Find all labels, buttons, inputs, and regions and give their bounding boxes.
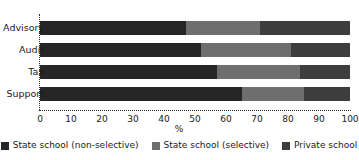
bar-segment: [201, 43, 291, 57]
bar-row: [40, 43, 350, 57]
legend-label: State school (non-selective): [13, 140, 139, 151]
legend-item: State school (selective): [152, 140, 270, 151]
legend-item: State school (non-selective): [1, 140, 139, 151]
legend-swatch-icon: [1, 142, 9, 150]
bar-segment: [40, 43, 201, 57]
bar-row: [40, 87, 350, 101]
bar-row: [40, 65, 350, 79]
legend-label: Private school: [294, 140, 357, 151]
legend-swatch-icon: [152, 142, 160, 150]
bar-segment: [217, 65, 301, 79]
bar-segment: [40, 65, 217, 79]
x-axis-title: %: [0, 124, 358, 135]
bar-segment: [40, 21, 186, 35]
legend-item: Private school: [282, 140, 357, 151]
bar-row: [40, 21, 350, 35]
y-axis-label: Audit: [0, 43, 44, 57]
y-axis-label: Support: [0, 87, 44, 101]
bar-segment: [291, 43, 350, 57]
bar-segment: [242, 87, 304, 101]
legend-label: State school (selective): [164, 140, 270, 151]
y-axis-label: Tax: [0, 65, 44, 79]
bar-segment: [300, 65, 350, 79]
y-axis-label: Advisory: [0, 21, 44, 35]
x-axis-line: [39, 110, 351, 111]
chart-legend: State school (non-selective)State school…: [0, 140, 358, 151]
bar-segment: [260, 21, 350, 35]
plot-area: [40, 16, 350, 110]
bar-segment: [186, 21, 260, 35]
bar-segment: [40, 87, 242, 101]
legend-swatch-icon: [282, 142, 290, 150]
bar-segment: [304, 87, 351, 101]
